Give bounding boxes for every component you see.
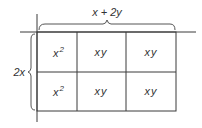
top-dimension-label: x + 2y <box>91 6 123 18</box>
cell-r2-c3: xy <box>144 85 159 97</box>
cell-r1-c3: xy <box>144 46 159 58</box>
cell-base: x <box>52 86 60 98</box>
left-brace <box>28 34 35 110</box>
left-dimension-label: 2x <box>12 66 25 78</box>
cell-r1-c2: xy <box>94 46 109 58</box>
svg-text:x2: x2 <box>52 84 65 98</box>
cell-r2-c1: x2 <box>52 84 65 98</box>
grid <box>37 32 176 111</box>
area-model-diagram: x + 2y 2x x2 xy xy x2 xy xy <box>0 0 202 128</box>
cell-r1-c1: x2 <box>52 45 65 59</box>
top-brace <box>39 20 175 30</box>
cell-exponent: 2 <box>59 45 65 54</box>
cell-r2-c2: xy <box>94 85 109 97</box>
svg-text:x2: x2 <box>52 45 65 59</box>
cell-base: x <box>52 47 60 59</box>
cell-exponent: 2 <box>59 84 65 93</box>
